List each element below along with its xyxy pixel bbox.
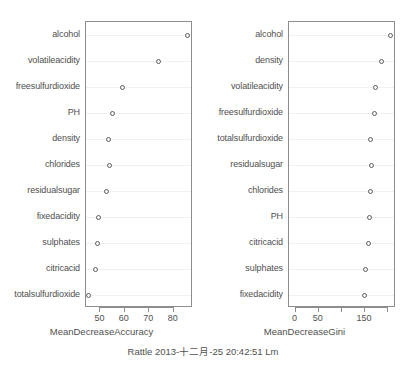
data-point <box>110 111 115 116</box>
gridline <box>289 113 394 114</box>
data-point <box>185 33 190 38</box>
variable-label: fixedacidity <box>37 211 80 221</box>
variable-label: alcohol <box>52 29 80 39</box>
gridline <box>86 295 191 296</box>
data-point <box>93 267 98 272</box>
data-point <box>86 293 91 298</box>
data-point <box>366 241 371 246</box>
data-point <box>363 267 368 272</box>
variable-label: PH <box>271 211 283 221</box>
x-axis-tick-label: 60 <box>119 313 129 323</box>
variable-label: citricacid <box>46 263 80 273</box>
figure-caption: Rattle 2013-十二月-25 20:42:51 Lm <box>0 346 406 357</box>
plot-frame-accuracy <box>85 21 192 307</box>
variable-label: chlorides <box>248 185 283 195</box>
gridline <box>86 269 191 270</box>
data-point <box>388 33 393 38</box>
category-label-column-accuracy: alcoholvolatileacidityfreesulfurdioxideP… <box>0 21 82 307</box>
gridline <box>289 269 394 270</box>
variable-label: volatileacidity <box>231 81 283 91</box>
x-axis-tick <box>318 307 319 312</box>
data-point <box>95 241 100 246</box>
variable-label: freesulfurdioxide <box>219 107 283 117</box>
variable-label: alcohol <box>255 29 283 39</box>
data-point <box>368 189 373 194</box>
x-axis-tick-label: 50 <box>313 313 323 323</box>
variable-label: PH <box>68 107 80 117</box>
chart-panel-mean-decrease-gini: alcoholdensityvolatileacidityfreesulfurd… <box>203 0 406 345</box>
gridline <box>86 61 191 62</box>
gridline <box>289 243 394 244</box>
data-point <box>373 85 378 90</box>
x-axis-tick <box>124 307 125 312</box>
gridline <box>289 295 394 296</box>
gridline <box>289 165 394 166</box>
variable-label: sulphates <box>42 237 80 247</box>
x-axis-accuracy: 50607080 <box>85 307 192 327</box>
variable-label: density <box>52 133 80 143</box>
data-point <box>362 293 367 298</box>
x-axis-tick <box>364 307 365 312</box>
x-axis-tick-label: 0 <box>292 313 297 323</box>
variable-importance-figure: alcoholvolatileacidityfreesulfurdioxideP… <box>0 0 406 375</box>
x-axis-tick <box>148 307 149 312</box>
data-point <box>379 59 384 64</box>
plot-frame-gini <box>288 21 395 307</box>
x-axis-tick-label: 80 <box>168 313 178 323</box>
gridline <box>86 139 191 140</box>
x-axis-title-accuracy: MeanDecreaseAccuracy <box>0 326 203 337</box>
data-point <box>104 189 109 194</box>
data-point <box>368 137 373 142</box>
clipped-footnote-text <box>0 364 406 370</box>
data-point <box>369 163 374 168</box>
chart-panel-mean-decrease-accuracy: alcoholvolatileacidityfreesulfurdioxideP… <box>0 0 203 345</box>
x-axis-tick <box>99 307 100 312</box>
data-point <box>106 137 111 142</box>
x-axis-tick-label: 150 <box>356 313 371 323</box>
variable-label: residualsugar <box>27 185 80 195</box>
variable-label: chlorides <box>45 159 80 169</box>
variable-label: volatileacidity <box>28 55 80 65</box>
x-axis-gini: 050150 <box>288 307 395 327</box>
data-point <box>107 163 112 168</box>
gridline <box>86 165 191 166</box>
x-axis-tick <box>173 307 174 312</box>
variable-label: totalsulfurdioxide <box>217 133 283 143</box>
variable-label: freesulfurdioxide <box>16 81 80 91</box>
gridline <box>86 217 191 218</box>
gridline <box>289 139 394 140</box>
variable-label: citricacid <box>249 237 283 247</box>
variable-label: density <box>255 55 283 65</box>
gridline <box>86 35 191 36</box>
x-axis-tick <box>295 307 296 312</box>
gridline <box>86 87 191 88</box>
gridline <box>86 113 191 114</box>
gridline <box>289 191 394 192</box>
gridline <box>289 217 394 218</box>
gridline <box>86 243 191 244</box>
category-label-column-gini: alcoholdensityvolatileacidityfreesulfurd… <box>203 21 285 307</box>
x-axis-title-gini: MeanDecreaseGini <box>203 326 406 337</box>
data-point <box>96 215 101 220</box>
data-point <box>367 215 372 220</box>
gridline <box>289 87 394 88</box>
data-point <box>372 111 377 116</box>
variable-label: totalsulfurdioxide <box>14 289 80 299</box>
x-axis-line <box>99 307 172 308</box>
variable-label: fixedacidity <box>240 289 283 299</box>
variable-label: sulphates <box>245 263 283 273</box>
gridline <box>289 35 394 36</box>
data-point <box>156 59 161 64</box>
x-axis-tick-label: 50 <box>94 313 104 323</box>
gridline <box>86 191 191 192</box>
x-axis-tick <box>387 307 388 312</box>
variable-label: residualsugar <box>230 159 283 169</box>
x-axis-tick-label: 70 <box>143 313 153 323</box>
data-point <box>120 85 125 90</box>
x-axis-tick <box>341 307 342 312</box>
